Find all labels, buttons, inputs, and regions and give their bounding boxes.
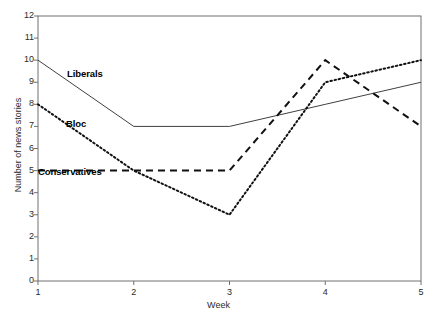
- plot-frame: [38, 16, 421, 281]
- x-tick-label-5: 5: [411, 287, 431, 297]
- series-label-bloc: Bloc: [66, 118, 86, 129]
- y-axis-title: Number of news stories: [13, 85, 23, 205]
- axis-tick-marks: [34, 16, 421, 285]
- y-tick-label-2: 2: [12, 231, 34, 241]
- y-tick-label-3: 3: [12, 209, 34, 219]
- x-tick-label-1: 1: [28, 287, 48, 297]
- y-tick-label-1: 1: [12, 253, 34, 263]
- x-axis-title: Week: [0, 300, 437, 310]
- y-tick-label-0: 0: [12, 275, 34, 285]
- series-label-conservatives: Conservatives: [38, 166, 102, 177]
- series-label-liberals: Liberals: [67, 68, 103, 79]
- y-tick-label-12: 12: [12, 10, 34, 20]
- x-tick-label-3: 3: [220, 287, 240, 297]
- plot-area: [0, 0, 437, 319]
- x-tick-label-4: 4: [315, 287, 335, 297]
- y-tick-label-11: 11: [12, 32, 34, 42]
- x-tick-label-2: 2: [124, 287, 144, 297]
- news-stories-line-chart: 0123456789101112 12345 LiberalsBlocConse…: [0, 0, 437, 319]
- y-tick-label-10: 10: [12, 54, 34, 64]
- series-line-bloc: [38, 60, 421, 215]
- series-paths: [38, 60, 421, 215]
